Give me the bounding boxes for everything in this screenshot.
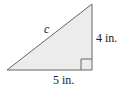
- horizontal-leg-label: 5 in.: [53, 73, 74, 87]
- triangle: [7, 4, 92, 70]
- vertical-leg-label: 4 in.: [96, 31, 117, 45]
- hypotenuse-label: c: [44, 22, 50, 36]
- right-triangle-diagram: c 4 in. 5 in.: [0, 0, 117, 89]
